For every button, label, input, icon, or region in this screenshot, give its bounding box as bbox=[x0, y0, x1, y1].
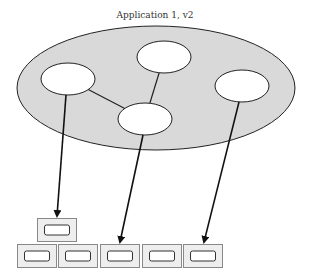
deployment-arrow bbox=[120, 135, 143, 242]
container-box bbox=[18, 245, 57, 268]
container-slot bbox=[150, 251, 175, 261]
container-slot bbox=[45, 225, 70, 235]
container-slot bbox=[25, 251, 50, 261]
container-box bbox=[184, 245, 223, 268]
component-node bbox=[137, 41, 191, 73]
deployment-diagram bbox=[0, 0, 310, 279]
container-boxes bbox=[18, 219, 223, 268]
container-slot bbox=[191, 251, 216, 261]
container-slot bbox=[66, 251, 91, 261]
container-box bbox=[59, 245, 98, 268]
container-box bbox=[38, 219, 77, 242]
component-node bbox=[118, 103, 172, 135]
container-box bbox=[101, 245, 140, 268]
container-box bbox=[143, 245, 182, 268]
component-node bbox=[41, 63, 95, 95]
container-slot bbox=[108, 251, 133, 261]
component-node bbox=[215, 70, 269, 102]
